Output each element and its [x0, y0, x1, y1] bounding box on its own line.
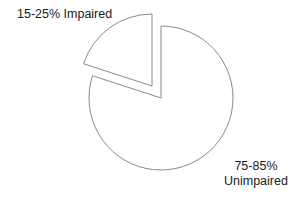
pie-chart: 15-25% Impaired 75-85% Unimpaired: [0, 0, 296, 199]
pie-slice-impaired: [84, 14, 152, 86]
label-unimpaired-range: 75-85%: [224, 159, 288, 174]
label-impaired: 15-25% Impaired: [17, 7, 112, 22]
label-unimpaired-category: Unimpaired: [224, 174, 288, 189]
label-unimpaired: 75-85% Unimpaired: [224, 159, 288, 189]
